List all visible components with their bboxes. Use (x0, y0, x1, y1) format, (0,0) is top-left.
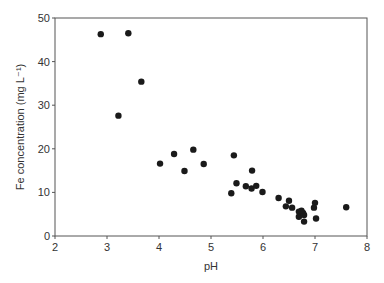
x-tick-label: 7 (312, 241, 318, 253)
y-tick-label: 30 (38, 99, 50, 111)
y-tick-label: 10 (38, 186, 50, 198)
x-tick-label: 5 (208, 241, 214, 253)
data-point (283, 203, 289, 209)
data-point (233, 180, 239, 186)
data-point (343, 204, 349, 210)
y-tick-label: 50 (38, 12, 50, 24)
data-point (190, 146, 196, 152)
data-point (157, 160, 163, 166)
data-point (289, 204, 295, 210)
y-axis-ticks: 01020304050 (38, 12, 55, 242)
data-point (253, 183, 259, 189)
data-point (243, 183, 249, 189)
x-axis-ticks: 2345678 (52, 236, 370, 253)
scatter-chart: 2345678 01020304050 pH Fe concentration … (0, 0, 384, 283)
x-axis-label: pH (204, 260, 218, 272)
x-tick-label: 6 (260, 241, 266, 253)
data-point (228, 190, 234, 196)
data-point (275, 195, 281, 201)
y-tick-label: 20 (38, 143, 50, 155)
data-point (115, 112, 121, 118)
x-tick-label: 2 (52, 241, 58, 253)
data-point (138, 78, 144, 84)
data-point (259, 189, 265, 195)
data-point (298, 208, 304, 214)
data-point (231, 152, 237, 158)
x-tick-label: 3 (104, 241, 110, 253)
data-point (311, 204, 317, 210)
y-axis-label: Fe concentration (mg L⁻¹) (14, 64, 26, 190)
x-tick-label: 8 (364, 241, 370, 253)
data-point (286, 197, 292, 203)
data-point (201, 161, 207, 167)
data-point (171, 151, 177, 157)
data-point (313, 215, 319, 221)
data-point (249, 167, 255, 173)
y-tick-label: 0 (44, 230, 50, 242)
data-points (98, 30, 350, 225)
y-tick-label: 40 (38, 56, 50, 68)
data-point (125, 30, 131, 36)
data-point (98, 31, 104, 37)
data-point (301, 218, 307, 224)
plot-frame (55, 18, 367, 236)
data-point (181, 168, 187, 174)
x-tick-label: 4 (156, 241, 162, 253)
